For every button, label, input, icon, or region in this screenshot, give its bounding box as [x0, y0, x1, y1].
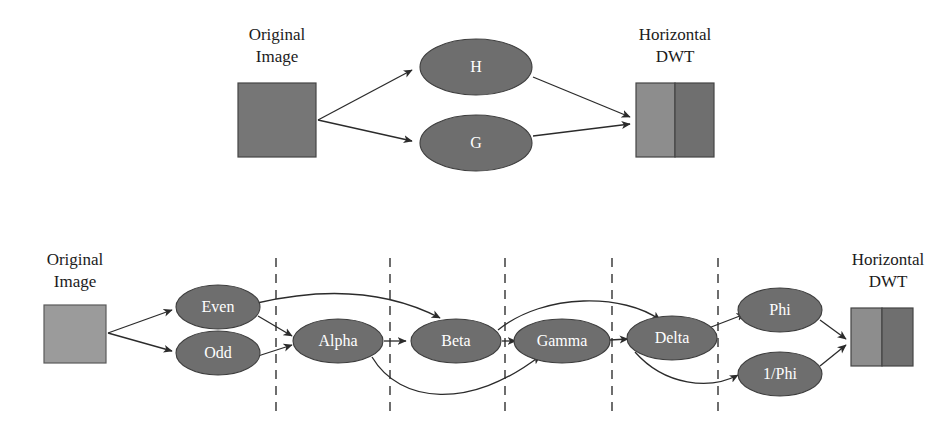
edge-h-to-output: [533, 77, 630, 117]
edge-input-to-even: [108, 310, 172, 333]
edge-inv-phi-to-output: [820, 345, 846, 366]
edge-even-skip-to-beta: [257, 293, 440, 318]
top-input-label-line2: Image: [256, 47, 298, 66]
top-input-label-line1: Original: [249, 25, 306, 44]
node-even-label: Even: [202, 298, 235, 315]
edge-even-to-alpha: [258, 316, 292, 336]
bottom-output-label-line1: Horizontal: [852, 250, 925, 269]
diagram-svg: Original Image H G Horizontal DWT Origin…: [0, 0, 950, 425]
edge-phi-to-output: [820, 320, 846, 339]
edge-g-to-output: [533, 124, 630, 136]
node-alpha-label: Alpha: [318, 332, 357, 350]
top-output-label-line2: DWT: [656, 47, 695, 66]
node-g-label: G: [470, 134, 482, 151]
bottom-input-label-line2: Image: [54, 272, 96, 291]
top-dwt-left-half: [636, 83, 675, 157]
bottom-original-image-box: [44, 305, 106, 363]
bottom-output-label-line2: DWT: [869, 272, 908, 291]
node-phi-label: Phi: [769, 301, 791, 318]
figure-canvas: Original Image H G Horizontal DWT Origin…: [0, 0, 950, 425]
node-delta-label: Delta: [655, 329, 690, 346]
node-h-label: H: [470, 58, 482, 75]
bottom-dwt-right-half: [882, 308, 913, 366]
bottom-dwt-left-half: [851, 308, 882, 366]
top-original-image-box: [238, 83, 316, 157]
edge-input-to-odd: [108, 333, 172, 351]
edge-input-to-g: [318, 120, 412, 141]
node-inv-phi-label: 1/Phi: [763, 365, 797, 382]
top-horizontal-dwt-box: [636, 83, 714, 157]
top-diagram: Original Image H G Horizontal DWT: [238, 25, 714, 171]
bottom-diagram: Original Image: [44, 250, 925, 412]
edge-odd-to-alpha: [258, 345, 292, 356]
bottom-input-label-line1: Original: [47, 250, 104, 269]
node-beta-label: Beta: [441, 332, 470, 349]
node-gamma-label: Gamma: [537, 332, 588, 349]
bottom-horizontal-dwt-box: [851, 308, 913, 366]
node-odd-label: Odd: [204, 344, 232, 361]
top-dwt-right-half: [675, 83, 714, 157]
edge-input-to-h: [318, 70, 412, 120]
top-output-label-line1: Horizontal: [639, 25, 712, 44]
